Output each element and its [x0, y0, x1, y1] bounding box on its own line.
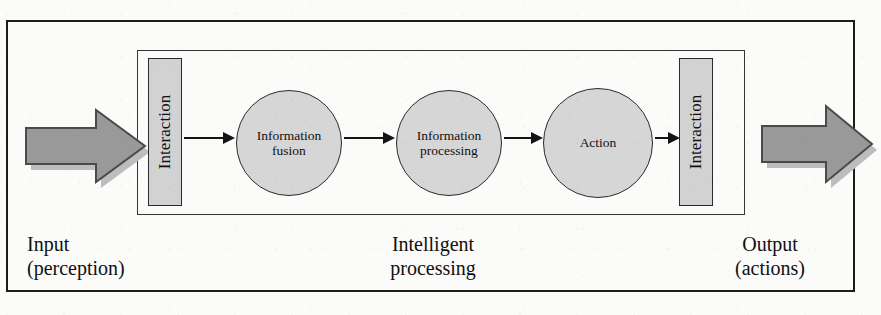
caption-input-line1: Input	[27, 232, 125, 256]
interaction-box-right: Interaction	[679, 58, 713, 206]
node-information-processing: Information processing	[396, 90, 502, 196]
connector-processing-to-action	[504, 137, 532, 139]
node-action-line1: Action	[574, 135, 623, 150]
caption-output-line2: (actions)	[700, 256, 840, 280]
interaction-box-left-label: Interaction	[155, 95, 175, 170]
connector-action-to-interaction	[655, 137, 669, 139]
node-information-processing-line2: processing	[411, 143, 487, 158]
connector-interaction-to-fusion	[184, 137, 224, 139]
node-action: Action	[543, 88, 653, 198]
node-information-fusion-line1: Information	[251, 128, 327, 143]
node-information-processing-line1: Information	[411, 128, 487, 143]
caption-output-line1: Output	[700, 232, 840, 256]
interaction-box-right-label: Interaction	[686, 95, 706, 170]
node-information-fusion-line2: fusion	[251, 143, 327, 158]
caption-input-line2: (perception)	[27, 256, 125, 280]
input-block-arrow-icon	[18, 96, 150, 188]
caption-middle-line2: processing	[303, 256, 563, 280]
interaction-box-left: Interaction	[148, 58, 182, 206]
caption-input: Input (perception)	[27, 232, 125, 281]
caption-middle-line1: Intelligent	[303, 232, 563, 256]
output-block-arrow-icon	[758, 92, 881, 188]
connector-fusion-to-processing	[344, 137, 384, 139]
caption-intelligent-processing: Intelligent processing	[303, 232, 563, 281]
caption-output: Output (actions)	[700, 232, 840, 281]
node-information-fusion: Information fusion	[236, 90, 342, 196]
